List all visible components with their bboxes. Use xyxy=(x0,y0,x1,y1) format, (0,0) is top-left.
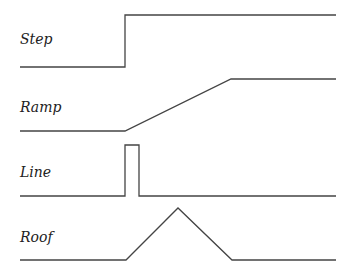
step-profile xyxy=(20,15,336,67)
edge-profiles-diagram: Step Ramp Line Roof xyxy=(0,0,352,277)
line-profile xyxy=(20,145,336,196)
label-step: Step xyxy=(20,31,53,47)
edge-line: Line xyxy=(19,145,336,196)
edge-step: Step xyxy=(20,15,336,67)
label-roof: Roof xyxy=(19,229,55,245)
label-line: Line xyxy=(19,164,51,180)
roof-profile xyxy=(20,208,336,260)
label-ramp: Ramp xyxy=(19,99,61,115)
edge-roof: Roof xyxy=(19,208,336,260)
edge-ramp: Ramp xyxy=(19,79,336,131)
ramp-profile xyxy=(20,79,336,131)
